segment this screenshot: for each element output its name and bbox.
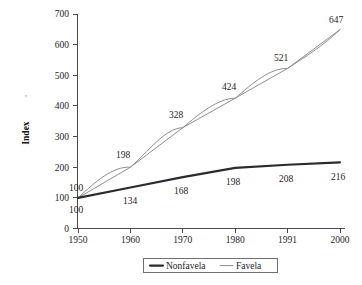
y-axis-title: Index xyxy=(21,121,31,144)
stray-mark: ' xyxy=(25,94,27,104)
y-tick-label: 300 xyxy=(55,132,70,142)
data-label-favela: 647 xyxy=(329,15,344,25)
line-chart: 0 100 200 300 400 500 600 700 1950 1960 … xyxy=(0,0,362,285)
data-label-favela: 198 xyxy=(116,150,131,160)
y-tick-label: 100 xyxy=(55,193,70,203)
data-label-nonfavela: 168 xyxy=(174,186,189,196)
y-tick-label: 400 xyxy=(55,101,70,111)
data-label-favela: 521 xyxy=(274,53,289,63)
data-labels-favela: 100 198 328 424 521 647 xyxy=(69,15,344,193)
x-tick-label: 1980 xyxy=(226,235,245,245)
y-tick-label: 700 xyxy=(55,9,70,19)
chart-container: 0 100 200 300 400 500 600 700 1950 1960 … xyxy=(0,0,362,285)
data-label-nonfavela: 100 xyxy=(69,205,84,215)
x-axis-tick-labels: 1950 1960 1970 1980 1991 2000 xyxy=(69,235,350,245)
x-tick-label: 1960 xyxy=(121,235,140,245)
series-polyline-nonfavela xyxy=(78,162,340,198)
x-axis-ticks xyxy=(78,229,340,234)
y-axis-tick-labels: 0 100 200 300 400 500 600 700 xyxy=(55,9,70,234)
legend-label-nonfavela: Nonfavela xyxy=(166,261,206,271)
data-label-nonfavela: 134 xyxy=(123,196,138,206)
y-tick-label: 500 xyxy=(55,71,70,81)
x-tick-label: 1950 xyxy=(69,235,88,245)
x-tick-label: 1991 xyxy=(278,235,297,245)
data-label-favela: 328 xyxy=(169,110,184,120)
y-tick-label: 600 xyxy=(55,40,70,50)
y-tick-label: 0 xyxy=(64,224,69,234)
data-label-favela: 424 xyxy=(222,82,237,92)
data-label-nonfavela: 208 xyxy=(279,174,294,184)
legend-label-favela: Favela xyxy=(236,261,262,271)
data-label-favela: 100 xyxy=(69,183,84,193)
y-tick-label: 200 xyxy=(55,163,70,173)
data-label-nonfavela: 216 xyxy=(331,172,346,182)
chart-legend: Nonfavela Favela xyxy=(144,259,278,273)
x-tick-label: 2000 xyxy=(331,235,350,245)
x-tick-label: 1970 xyxy=(173,235,192,245)
y-axis-ticks xyxy=(73,14,78,229)
data-label-nonfavela: 198 xyxy=(226,177,241,187)
